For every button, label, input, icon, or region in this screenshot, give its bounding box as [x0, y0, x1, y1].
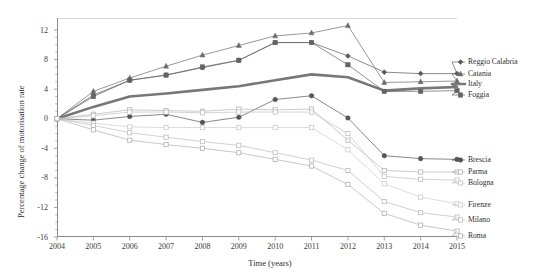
- x-axis-title: Time (years): [150, 258, 390, 268]
- legend-item-firenze: Firenze: [468, 201, 491, 209]
- legend-item-reggio-calabria: Reggio Calabria: [468, 58, 518, 66]
- legend-item-foggia: Foggia: [468, 91, 489, 99]
- axis-ticks: [54, 30, 457, 241]
- series-parma: [55, 107, 459, 174]
- x-tick-2014: 2014: [401, 242, 441, 251]
- chart-container: 12840-4-8-12-16 200420052006200720082009…: [0, 0, 543, 274]
- x-tick-2013: 2013: [364, 242, 404, 251]
- series-roma: [55, 117, 459, 234]
- x-tick-2012: 2012: [328, 242, 368, 251]
- x-tick-2015: 2015: [437, 242, 477, 251]
- legend-marker-parma: [452, 170, 465, 174]
- y-tick--16: -16: [22, 233, 48, 242]
- x-tick-2006: 2006: [110, 242, 150, 251]
- series-milano: [55, 117, 459, 220]
- y-tick-12: 12: [22, 26, 48, 35]
- legend-item-brescia: Brescia: [468, 156, 491, 164]
- series-catania: [55, 23, 460, 121]
- x-tick-2007: 2007: [146, 242, 186, 251]
- x-tick-2004: 2004: [37, 242, 77, 251]
- x-tick-2005: 2005: [73, 242, 113, 251]
- legend-item-bologna: Bologna: [468, 179, 494, 187]
- legend-item-italy: Italy: [468, 80, 482, 88]
- series-foggia: [55, 40, 459, 121]
- legend-marker-reggio-calabria: [452, 60, 465, 65]
- legend-marker-firenze: [452, 203, 465, 207]
- y-axis-title: Percentage change of motorisation rate: [16, 85, 26, 218]
- x-tick-2009: 2009: [219, 242, 259, 251]
- x-tick-2008: 2008: [182, 242, 222, 251]
- x-tick-2010: 2010: [255, 242, 295, 251]
- legend-item-parma: Parma: [468, 168, 487, 176]
- chart-series-layer: [0, 0, 543, 274]
- series-lines: [55, 23, 460, 236]
- series-reggio-calabria: [55, 40, 460, 121]
- legend-item-milano: Milano: [468, 216, 490, 224]
- legend-item-catania: Catania: [468, 70, 491, 78]
- x-tick-2011: 2011: [292, 242, 332, 251]
- legend-item-roma: Roma: [468, 232, 486, 240]
- y-tick-8: 8: [22, 55, 48, 64]
